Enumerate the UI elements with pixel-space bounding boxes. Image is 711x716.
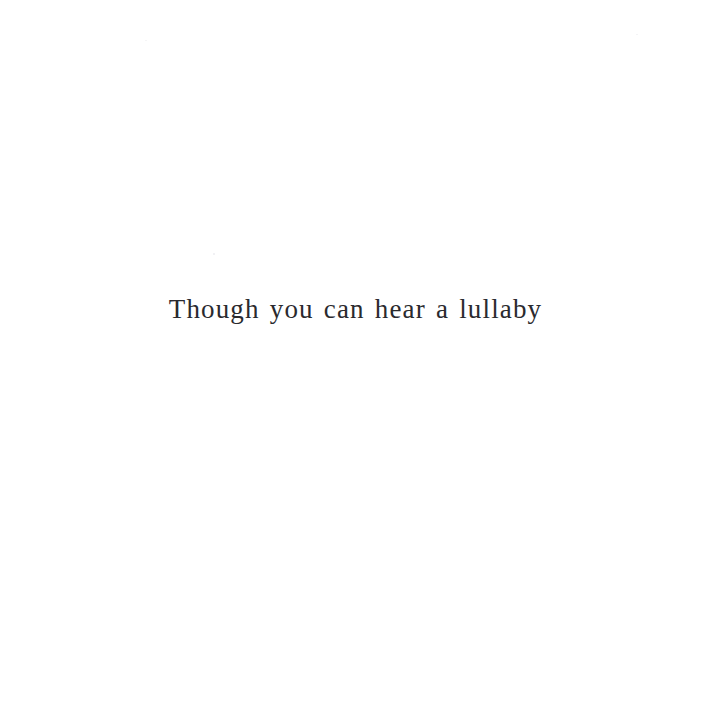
verse-block: Though you can hear a lullaby (0, 292, 711, 326)
page-canvas: Though you can hear a lullaby (0, 0, 711, 716)
scan-speck-icon (145, 40, 147, 41)
verse-line-text: Though you can hear a lullaby (169, 292, 543, 326)
scan-speck-icon (636, 34, 638, 35)
scan-speck-icon (213, 253, 215, 255)
